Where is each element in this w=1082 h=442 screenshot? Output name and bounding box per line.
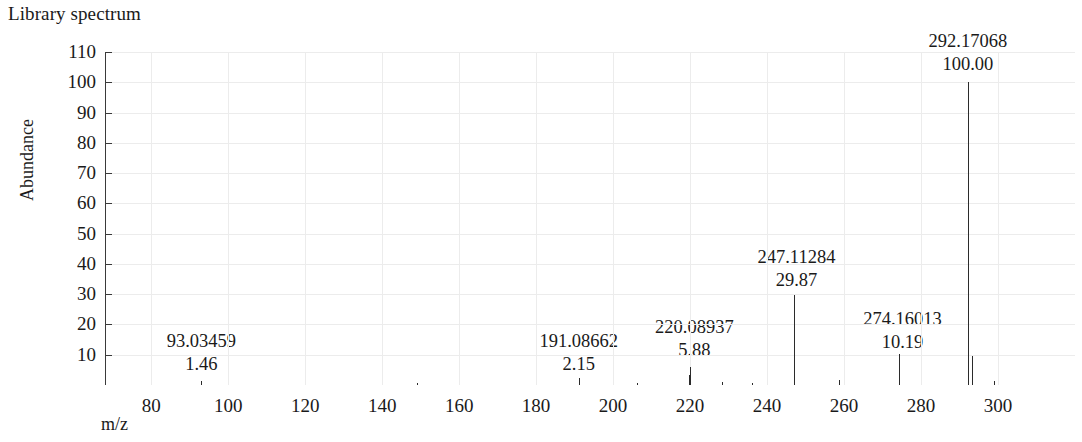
y-tick-label: 10 <box>44 345 96 364</box>
x-tick-label: 200 <box>583 396 643 415</box>
mass-spectrum-figure: Library spectrum Abundance m/z 110100908… <box>0 0 1082 442</box>
peak-lines <box>202 82 995 385</box>
x-tick-label: 260 <box>814 396 874 415</box>
x-tick-label: 220 <box>660 396 720 415</box>
axis-ticks <box>106 53 999 386</box>
y-tick-label: 20 <box>44 314 96 333</box>
x-tick-label: 140 <box>352 396 412 415</box>
y-tick-label: 100 <box>44 72 96 91</box>
y-tick-label: 30 <box>44 284 96 303</box>
x-tick-label: 160 <box>429 396 489 415</box>
spectrum-plot <box>105 52 1075 385</box>
page-title: Library spectrum <box>8 2 141 26</box>
y-tick-label: 110 <box>44 42 96 61</box>
y-axis-title: Abundance <box>17 90 37 230</box>
y-tick-label: 80 <box>44 133 96 152</box>
x-axis-title: m/z <box>101 414 128 434</box>
y-tick-label: 90 <box>44 103 96 122</box>
y-tick-label: 70 <box>44 163 96 182</box>
y-tick-label: 40 <box>44 254 96 273</box>
x-tick-label: 280 <box>891 396 951 415</box>
gridlines <box>105 52 1075 385</box>
peak-mz-label: 292.17068 <box>883 30 1053 53</box>
x-tick-label: 120 <box>275 396 335 415</box>
x-tick-label: 100 <box>198 396 258 415</box>
y-tick-label: 60 <box>44 193 96 212</box>
x-tick-label: 300 <box>968 396 1028 415</box>
plot-area <box>105 52 1075 385</box>
axis-lines <box>105 52 1075 385</box>
x-tick-label: 80 <box>121 396 181 415</box>
x-tick-label: 180 <box>506 396 566 415</box>
y-tick-label: 50 <box>44 224 96 243</box>
x-tick-label: 240 <box>737 396 797 415</box>
